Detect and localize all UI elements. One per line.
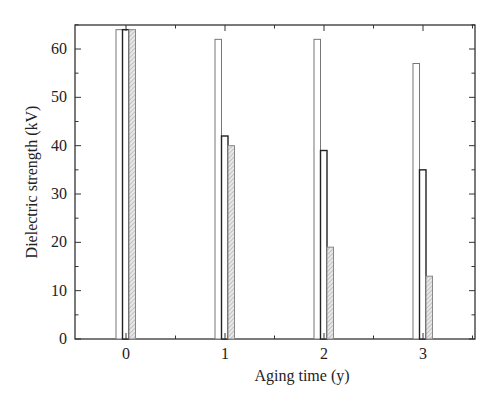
bar-group	[314, 39, 334, 339]
tick-labels: 01020304050600123	[51, 40, 427, 362]
bar	[129, 30, 136, 339]
bar	[420, 170, 427, 339]
x-tick-label: 3	[419, 345, 427, 362]
bar	[116, 30, 123, 339]
x-tick-label: 2	[320, 345, 328, 362]
y-tick-label: 60	[51, 40, 67, 57]
bar	[413, 64, 420, 340]
bar	[222, 136, 229, 339]
bar	[314, 39, 321, 339]
x-tick-label: 1	[221, 345, 229, 362]
bar	[228, 146, 235, 339]
y-tick-label: 0	[59, 330, 67, 347]
bars	[116, 30, 433, 339]
bar-group	[215, 39, 235, 339]
y-axis-label: Dielectric strength (kV)	[23, 106, 41, 259]
x-tick-label: 0	[122, 345, 130, 362]
y-tick-label: 40	[51, 137, 67, 154]
y-tick-label: 50	[51, 88, 67, 105]
bar	[123, 30, 130, 339]
bar	[426, 276, 433, 339]
bar-group	[413, 64, 433, 340]
y-tick-label: 10	[51, 282, 67, 299]
y-tick-label: 30	[51, 185, 67, 202]
y-tick-label: 20	[51, 233, 67, 250]
x-axis-label: Aging time (y)	[254, 367, 349, 385]
chart: 01020304050600123 Aging time (y) Dielect…	[0, 0, 504, 405]
bar	[321, 151, 328, 340]
bar-group	[116, 30, 136, 339]
bar	[215, 39, 222, 339]
bar	[327, 247, 334, 339]
